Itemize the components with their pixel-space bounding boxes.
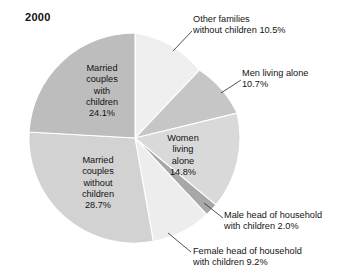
leader-line-female-head-household: [168, 233, 191, 252]
callout-label-male-head-household: Male head of household with children 2.0…: [224, 210, 322, 232]
pie-chart-figure: 2000 Other families wi: [0, 0, 353, 279]
leader-line-men-living-alone: [221, 80, 241, 93]
callout-label-men-living-alone: Men living alone 10.7%: [242, 68, 308, 90]
callout-label-other-families: Other families without children 10.5%: [193, 14, 285, 36]
leader-line-other-families: [173, 31, 192, 51]
slice-label-married-with-children: Married couples with children 24.1%: [62, 63, 142, 119]
slice-label-married-without-children: Married couples without children 28.7%: [55, 155, 141, 211]
callout-label-female-head-household: Female head of household with children 9…: [193, 246, 302, 268]
slice-label-women-living-alone: Women living alone 14.8%: [152, 133, 214, 178]
